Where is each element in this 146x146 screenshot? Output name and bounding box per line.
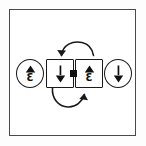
bar-with-triangle-down-icon <box>51 63 69 84</box>
symbol-row: Ɛ Ɛ <box>16 59 130 89</box>
figure-root: Ɛ Ɛ <box>0 0 146 146</box>
down-arrow-icon <box>113 65 124 83</box>
down-arrow-icon <box>55 65 66 83</box>
triangle-up-with-epsilon-icon: Ɛ <box>21 63 39 84</box>
bracket-symbol-square-up[interactable]: Ɛ <box>75 59 103 88</box>
epsilon-glyph: Ɛ <box>86 73 93 82</box>
bar-with-triangle-down-icon <box>109 63 127 84</box>
bracket-symbol-circle-up[interactable]: Ɛ <box>16 59 44 88</box>
triangle-up-with-epsilon-icon: Ɛ <box>80 63 98 84</box>
epsilon-glyph: Ɛ <box>27 73 34 82</box>
bracket-symbol-circle-down[interactable] <box>104 59 132 88</box>
pivot-dot-icon <box>70 70 77 77</box>
